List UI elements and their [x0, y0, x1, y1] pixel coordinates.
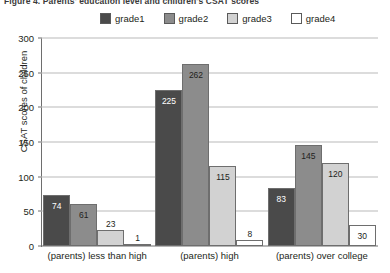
bar-value-label: 74 — [52, 202, 61, 211]
bar-grade2[interactable]: 61 — [70, 204, 97, 246]
bar-group: 8314512030 — [266, 38, 378, 246]
legend-item-grade2[interactable]: grade2 — [164, 13, 209, 24]
legend-item-grade1[interactable]: grade1 — [100, 13, 145, 24]
bar-group: 2252621158 — [153, 38, 265, 246]
legend-label-grade2: grade2 — [179, 14, 209, 24]
legend-swatch-grade3 — [227, 13, 238, 24]
bar-grade4[interactable]: 8 — [236, 240, 263, 246]
y-tick-label: 200 — [18, 102, 34, 113]
legend-label-grade3: grade3 — [242, 14, 272, 24]
bar-value-label: 23 — [106, 220, 115, 229]
bar-grade2[interactable]: 145 — [295, 145, 322, 246]
bar-grade2[interactable]: 262 — [182, 64, 209, 246]
y-tick-label: 50 — [23, 206, 34, 217]
y-tick-label: 100 — [18, 171, 34, 182]
bar-value-label: 120 — [328, 170, 342, 179]
bar-groups: 746123122526211588314512030 — [41, 38, 378, 246]
legend-swatch-grade2 — [164, 13, 175, 24]
x-axis-label: (parents) over college — [266, 250, 378, 261]
bar-value-label: 61 — [79, 211, 88, 220]
bar-value-label: 1 — [135, 234, 140, 243]
y-tick-label: 250 — [18, 67, 34, 78]
y-tick-label: 150 — [18, 137, 34, 148]
bar-grade4[interactable]: 30 — [349, 225, 376, 246]
plot-area: 050100150200250300 746123122526211588314… — [41, 38, 378, 246]
bar-grade1[interactable]: 74 — [43, 195, 70, 246]
bar-grade1[interactable]: 225 — [155, 90, 182, 246]
bar-grade3[interactable]: 115 — [209, 166, 236, 246]
y-tick-label: 300 — [18, 33, 34, 44]
x-axis-labels: (parents) less than high(parents) high(p… — [41, 250, 378, 261]
legend-item-grade3[interactable]: grade3 — [227, 13, 272, 24]
chart-legend: grade1grade2grade3grade4 — [100, 13, 335, 24]
bar-value-label: 262 — [189, 71, 203, 80]
y-tick-label: 0 — [29, 241, 34, 252]
legend-label-grade1: grade1 — [115, 14, 145, 24]
bar-value-label: 8 — [248, 230, 253, 239]
x-axis-label: (parents) less than high — [41, 250, 153, 261]
legend-swatch-grade4 — [291, 13, 302, 24]
bar-value-label: 115 — [216, 173, 230, 182]
bar-value-label: 145 — [301, 152, 315, 161]
y-axis-ticks: 050100150200250300 — [13, 38, 39, 246]
bar-value-label: 30 — [358, 232, 367, 241]
legend-item-grade4[interactable]: grade4 — [291, 13, 336, 24]
bar-grade3[interactable]: 23 — [97, 230, 124, 246]
legend-label-grade4: grade4 — [306, 14, 336, 24]
x-axis-label: (parents) high — [153, 250, 265, 261]
bar-group: 7461231 — [41, 38, 153, 246]
legend-swatch-grade1 — [100, 13, 111, 24]
bar-grade4[interactable]: 1 — [124, 244, 151, 246]
bar-grade3[interactable]: 120 — [322, 163, 349, 246]
bar-grade1[interactable]: 83 — [268, 188, 295, 246]
bar-value-label: 225 — [162, 97, 176, 106]
figure-title: Figure 4. Parents' education level and c… — [4, 0, 259, 6]
bar-value-label: 83 — [277, 195, 286, 204]
